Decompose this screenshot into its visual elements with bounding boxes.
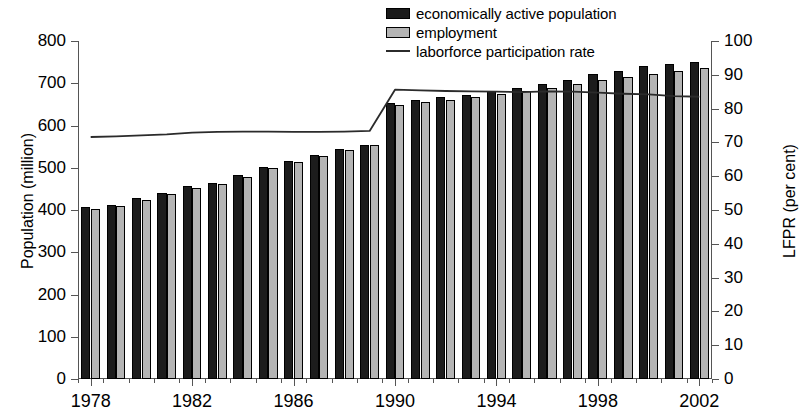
x-tick-label-2002: 2002 (679, 393, 719, 410)
x-tick-label-1998: 1998 (578, 393, 618, 410)
y-tick-label-right-80: 80 (724, 100, 743, 117)
x-tick-label-1986: 1986 (274, 393, 314, 410)
x-tick-minor (509, 379, 510, 383)
x-tick-label-1994: 1994 (476, 393, 516, 410)
x-tick-label-1982: 1982 (172, 393, 212, 410)
x-tick-minor (256, 379, 257, 383)
x-tick-1998 (598, 379, 599, 386)
y-tick-left-800 (71, 41, 78, 42)
y-tick-left-300 (71, 252, 78, 253)
y-tick-label-right-50: 50 (724, 201, 743, 218)
x-tick-minor (230, 379, 231, 383)
x-tick-minor (687, 379, 688, 383)
x-tick-minor (560, 379, 561, 383)
line-series-laborforce-participation-rate (78, 41, 712, 379)
y-tick-right-30 (712, 278, 719, 279)
y-tick-label-left-200: 200 (38, 286, 66, 303)
y-tick-left-200 (71, 295, 78, 296)
x-tick-label-1978: 1978 (71, 393, 111, 410)
y-tick-label-left-400: 400 (38, 201, 66, 218)
y-tick-label-right-30: 30 (724, 269, 743, 286)
y-tick-label-right-40: 40 (724, 235, 743, 252)
y-tick-right-50 (712, 210, 719, 211)
y-tick-label-left-100: 100 (38, 328, 66, 345)
y-tick-label-right-70: 70 (724, 133, 743, 150)
y-tick-label-left-300: 300 (38, 243, 66, 260)
x-tick-minor (103, 379, 104, 383)
x-tick-minor (484, 379, 485, 383)
y-tick-label-left-700: 700 (38, 74, 66, 91)
x-tick-minor (382, 379, 383, 383)
y-axis-title-right: LFPR (per cent) (781, 101, 799, 301)
x-tick-2002 (699, 379, 700, 386)
y-tick-left-400 (71, 210, 78, 211)
y-tick-label-right-100: 100 (724, 32, 752, 49)
y-tick-right-10 (712, 345, 719, 346)
x-tick-minor (78, 379, 79, 383)
chart-figure: economically active population employmen… (0, 0, 805, 420)
y-tick-label-right-20: 20 (724, 302, 743, 319)
y-tick-label-right-10: 10 (724, 336, 743, 353)
x-tick-minor (534, 379, 535, 383)
x-tick-minor (408, 379, 409, 383)
x-tick-1990 (395, 379, 396, 386)
x-tick-minor (433, 379, 434, 383)
x-tick-minor (712, 379, 713, 383)
x-tick-minor (205, 379, 206, 383)
y-tick-left-100 (71, 337, 78, 338)
x-tick-minor (636, 379, 637, 383)
y-tick-right-90 (712, 75, 719, 76)
y-tick-left-700 (71, 83, 78, 84)
y-tick-right-60 (712, 176, 719, 177)
y-tick-right-70 (712, 142, 719, 143)
x-tick-minor (154, 379, 155, 383)
legend-label-economically-active-population: economically active population (416, 5, 616, 22)
x-tick-minor (661, 379, 662, 383)
x-tick-minor (281, 379, 282, 383)
y-tick-left-600 (71, 126, 78, 127)
x-tick-minor (611, 379, 612, 383)
plot-area: 0100200300400500600700800 01020304050607… (78, 41, 712, 379)
x-tick-minor (458, 379, 459, 383)
x-tick-1982 (192, 379, 193, 386)
y-tick-label-left-0: 0 (57, 370, 66, 387)
legend-label-employment: employment (416, 24, 497, 41)
y-tick-right-80 (712, 109, 719, 110)
x-tick-minor (585, 379, 586, 383)
y-tick-right-100 (712, 41, 719, 42)
x-tick-minor (306, 379, 307, 383)
y-tick-label-left-600: 600 (38, 117, 66, 134)
y-tick-label-right-90: 90 (724, 66, 743, 83)
x-tick-minor (129, 379, 130, 383)
y-tick-left-0 (71, 379, 78, 380)
y-tick-label-right-60: 60 (724, 167, 743, 184)
y-tick-left-500 (71, 168, 78, 169)
y-tick-label-left-800: 800 (38, 32, 66, 49)
y-axis-title-left: Population (million) (19, 101, 37, 301)
legend-swatch-dark-icon (386, 8, 416, 19)
y-tick-right-20 (712, 311, 719, 312)
y-tick-right-0 (712, 379, 719, 380)
x-tick-1986 (294, 379, 295, 386)
x-tick-minor (357, 379, 358, 383)
x-tick-1994 (496, 379, 497, 386)
x-tick-minor (179, 379, 180, 383)
x-tick-label-1990: 1990 (375, 393, 415, 410)
x-tick-1978 (91, 379, 92, 386)
y-tick-right-40 (712, 244, 719, 245)
legend-item-economically-active-population: economically active population (386, 4, 726, 22)
legend-swatch-light-icon (386, 27, 416, 38)
y-tick-label-left-500: 500 (38, 159, 66, 176)
legend-item-employment: employment (386, 23, 726, 41)
x-tick-minor (332, 379, 333, 383)
y-tick-label-right-0: 0 (724, 370, 733, 387)
